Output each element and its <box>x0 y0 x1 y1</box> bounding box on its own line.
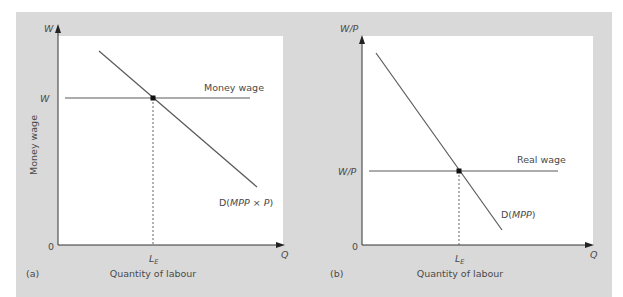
panel-b-panel-label: (b) <box>330 268 343 279</box>
panel-b-demand-label: D(MPP) <box>501 209 535 220</box>
panel-a-money-wage-label: Money wage <box>204 82 264 93</box>
panel-b-x-axis-title: Quantity of labour <box>417 268 504 279</box>
panel-b-x-axis-name: Q <box>590 249 598 260</box>
panel-b-plot-area <box>362 36 593 245</box>
panel-a-y-axis-name: W <box>44 23 54 34</box>
panel-a-equilibrium-point <box>151 96 156 101</box>
panel-b-real-wage-label: Real wage <box>517 154 566 165</box>
panel-b-y-tick-label: W/P <box>338 166 357 177</box>
panel-b-origin-label: 0 <box>352 241 358 252</box>
panel-b-y-axis-name: W/P <box>340 23 359 34</box>
panel-a-demand-label: D(MPP × P) <box>219 197 273 208</box>
panel-a-plot-area <box>58 36 283 245</box>
panel-a-x-axis-title: Quantity of labour <box>110 268 197 279</box>
panel-a-origin-label: 0 <box>48 241 54 252</box>
panel-a-x-axis-name: Q <box>281 249 289 260</box>
panel-a-panel-label: (a) <box>26 268 39 279</box>
panel-a-y-axis-title: Money wage <box>28 115 39 175</box>
panel-b-equilibrium-point <box>457 169 462 174</box>
labour-market-diagram: W W Money wage 0 Q LE Quantity of labour… <box>0 0 623 297</box>
panel-a-y-tick-label: W <box>40 93 50 104</box>
